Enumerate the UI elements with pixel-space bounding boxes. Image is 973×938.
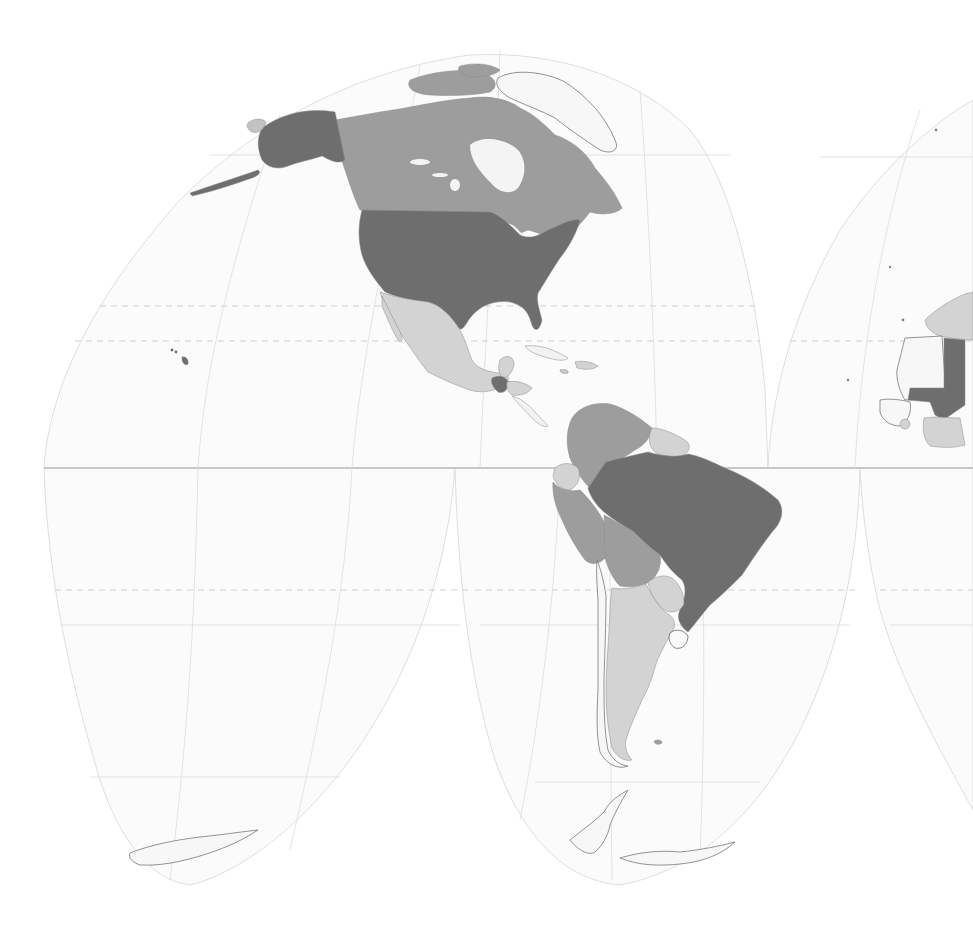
world-map: [0, 0, 973, 938]
lobe-south-pacific: [44, 468, 455, 885]
country-usa-alaska[interactable]: [258, 111, 345, 168]
country-sierra-leone[interactable]: [900, 419, 910, 429]
lobe-south-atlantic-east: [860, 468, 973, 810]
map-svg: [0, 0, 973, 938]
country-ivory-coast-region[interactable]: [923, 417, 965, 447]
